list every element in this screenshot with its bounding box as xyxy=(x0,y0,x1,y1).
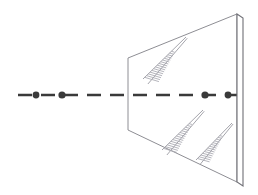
vertical-edge-slab xyxy=(237,14,243,186)
node-2 xyxy=(58,91,65,98)
node-4 xyxy=(225,92,232,99)
diagram-canvas: Perspective line drawing of a flat trans… xyxy=(0,0,258,195)
node-3 xyxy=(201,91,208,98)
diagram-svg xyxy=(0,0,258,195)
node-1 xyxy=(33,92,40,99)
edge-slab-face xyxy=(237,14,243,186)
